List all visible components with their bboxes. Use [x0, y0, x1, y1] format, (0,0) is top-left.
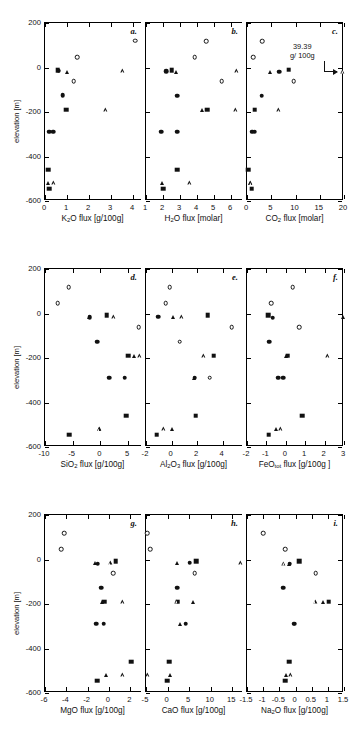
y-tick [146, 157, 150, 158]
data-point-filled-triangle [178, 622, 182, 626]
data-point-filled-circle [51, 129, 56, 134]
x-tick [89, 195, 90, 199]
x-tick [133, 195, 134, 199]
y-tick-right [338, 112, 342, 113]
x-tick-label: -1 [262, 449, 269, 458]
y-tick [146, 604, 150, 605]
data-point-filled-square [46, 168, 51, 173]
x-tick-top [189, 515, 190, 519]
x-tick-label: 1 [302, 449, 306, 458]
data-point-open-triangle [108, 561, 113, 566]
data-point-open-triangle [121, 600, 126, 605]
x-tick [168, 687, 169, 691]
x-tick-label: 1 [64, 203, 68, 212]
panel-letter: e. [232, 272, 238, 282]
data-point-filled-triangle [100, 600, 104, 604]
y-tick [45, 604, 49, 605]
plot-panel-i: i. [246, 514, 343, 692]
data-point-open-circle [192, 55, 197, 60]
y-tick-label: 0 [16, 554, 41, 563]
x-tick [67, 195, 68, 199]
x-tick-top [100, 269, 101, 273]
data-point-filled-square [266, 313, 271, 318]
x-tick [146, 687, 147, 691]
y-tick [146, 358, 150, 359]
data-point-open-triangle [278, 427, 283, 432]
x-tick [197, 195, 198, 199]
data-point-filled-square [252, 107, 257, 112]
plot-panel-d: d. [44, 268, 141, 446]
y-tick [146, 314, 150, 315]
data-point-filled-square [283, 678, 288, 683]
x-tick [45, 195, 46, 199]
data-point-filled-square [55, 68, 60, 73]
y-tick [45, 23, 49, 24]
data-point-open-triangle [121, 673, 126, 678]
data-point-open-triangle [121, 69, 126, 74]
x-tick-top [344, 269, 345, 273]
x-tick-top [296, 23, 297, 27]
y-tick [45, 201, 49, 202]
data-point-filled-triangle [171, 315, 175, 319]
x-tick-top [312, 515, 313, 519]
data-point-filled-square [206, 313, 211, 318]
data-point-filled-circle [175, 93, 180, 98]
x-tick-label: 2 [86, 203, 90, 212]
data-point-filled-circle [292, 621, 297, 626]
data-point-open-circle [111, 571, 116, 576]
x-tick-label: 1 [143, 203, 147, 212]
data-point-open-triangle [340, 69, 345, 74]
data-point-open-triangle [233, 108, 238, 113]
x-tick-top [328, 515, 329, 519]
y-tick [45, 693, 49, 694]
x-tick-label: 2 [160, 203, 164, 212]
data-point-open-circle [260, 39, 265, 44]
data-point-open-triangle [103, 108, 108, 113]
x-tick-label: -0.5 [272, 695, 285, 704]
x-tick-label: 20 [339, 203, 347, 212]
data-point-filled-square [246, 168, 251, 173]
x-tick-top [73, 269, 74, 273]
plot-panel-b: b. [145, 22, 242, 200]
data-point-open-triangle [326, 354, 331, 359]
x-tick [66, 687, 67, 691]
data-point-filled-circle [175, 129, 180, 134]
x-tick-top [128, 269, 129, 273]
panel-letter: h. [231, 518, 238, 528]
y-tick-right [338, 447, 342, 448]
x-tick [73, 441, 74, 445]
x-tick-top [197, 23, 198, 27]
data-point-open-circle [133, 39, 138, 44]
data-point-filled-circle [187, 561, 192, 566]
data-point-filled-square [286, 67, 291, 72]
x-tick-label: 15 [315, 203, 323, 212]
x-axis-title: CO2 flux [molar] [246, 214, 343, 223]
panel-letter: c. [332, 26, 338, 36]
data-point-filled-circle [270, 315, 275, 320]
data-point-open-circle [208, 375, 213, 380]
x-tick [189, 687, 190, 691]
data-point-open-circle [145, 531, 150, 536]
y-tick-right [338, 23, 342, 24]
data-point-open-circle [283, 547, 288, 552]
y-tick [146, 447, 150, 448]
x-tick-top [266, 269, 267, 273]
data-point-filled-square [167, 660, 172, 665]
y-tick-label: 200 [16, 510, 41, 519]
data-point-filled-circle [123, 375, 128, 380]
x-tick-label: 3 [177, 203, 181, 212]
data-point-filled-triangle [341, 315, 345, 319]
panel-letter: d. [131, 272, 137, 282]
x-tick [88, 687, 89, 691]
y-tick [45, 358, 49, 359]
plot-panel-a: a. [44, 22, 141, 200]
x-tick-label: -4 [62, 695, 69, 704]
annotation-value: 39.39 [293, 42, 312, 51]
data-point-filled-square [155, 432, 160, 437]
data-point-filled-circle [101, 621, 106, 626]
data-point-open-triangle [137, 354, 142, 359]
y-tick [146, 112, 150, 113]
x-tick-label: -2 [83, 695, 90, 704]
x-tick [146, 441, 147, 445]
x-tick [320, 195, 321, 199]
